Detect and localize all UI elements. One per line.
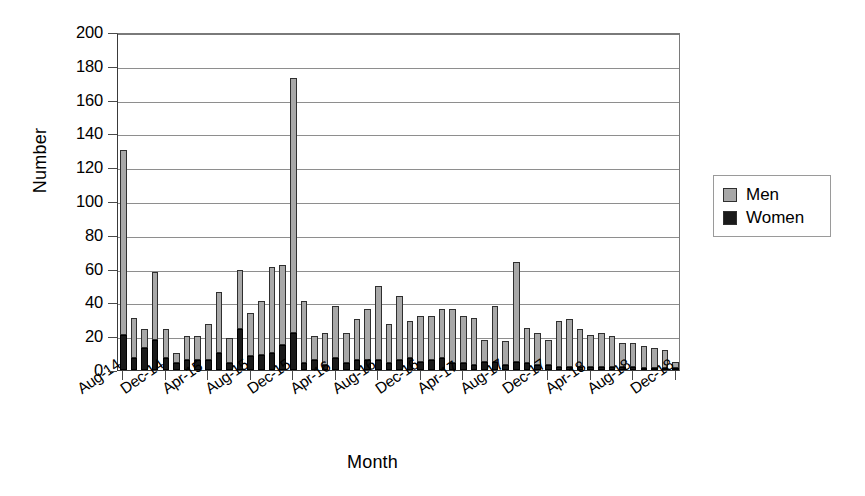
bar-column (258, 32, 265, 370)
bar-segment-men (343, 333, 350, 363)
y-axis-tick-mark (108, 371, 117, 372)
bar-column (152, 32, 159, 370)
bar-column (524, 32, 531, 370)
bar-segment-men (290, 78, 297, 333)
bar-column (534, 32, 541, 370)
bar-column (301, 32, 308, 370)
bar-column (545, 32, 552, 370)
bar-segment-men (428, 316, 435, 360)
bar-column (492, 32, 499, 370)
bar-column (641, 32, 648, 370)
bar-column (672, 32, 679, 370)
bar-segment-men (513, 262, 520, 362)
bar-column (598, 32, 605, 370)
bar-column (354, 32, 361, 370)
y-axis-tick-mark (108, 168, 117, 169)
bar-column (630, 32, 637, 370)
bar-column (471, 32, 478, 370)
bar-column (396, 32, 403, 370)
bar-column (131, 32, 138, 370)
bar-segment-men (471, 318, 478, 365)
y-axis-tick-label: 180 (57, 58, 103, 74)
bar-column (322, 32, 329, 370)
bar-column (662, 32, 669, 370)
bar-segment-men (226, 338, 233, 363)
bar-segment-men (375, 286, 382, 360)
bar-segment-men (502, 341, 509, 365)
bar-column (556, 32, 563, 370)
bar-column (184, 32, 191, 370)
bar-column (279, 32, 286, 370)
y-axis-tick-label: 160 (57, 92, 103, 108)
bar-segment-men (216, 292, 223, 353)
bar-column (194, 32, 201, 370)
bar-column (407, 32, 414, 370)
bar-column (386, 32, 393, 370)
bar-column (460, 32, 467, 370)
bar-column (141, 32, 148, 370)
bar-segment-men (163, 329, 170, 358)
bar-column (216, 32, 223, 370)
bar-column (173, 32, 180, 370)
bar-segment-women (460, 363, 467, 370)
bar-segment-women (290, 333, 297, 370)
bar-segment-men (364, 309, 371, 360)
bar-segment-men (481, 340, 488, 362)
bar-segment-men (152, 272, 159, 340)
bar-segment-men (173, 353, 180, 363)
plot-area (117, 33, 680, 371)
bar-column (311, 32, 318, 370)
y-axis-tick-mark (108, 134, 117, 135)
bar-segment-men (524, 328, 531, 363)
bar-column (577, 32, 584, 370)
bar-column (290, 32, 297, 370)
bar-segment-men (354, 319, 361, 360)
bar-column (163, 32, 170, 370)
bar-column (481, 32, 488, 370)
bar-segment-women (332, 358, 339, 370)
bar-segment-men (258, 301, 265, 355)
y-axis-tick-mark (108, 202, 117, 203)
bar-column (513, 32, 520, 370)
y-axis-tick-label: 140 (57, 125, 103, 141)
bar-column (417, 32, 424, 370)
y-axis-tick-label: 200 (57, 24, 103, 40)
bar-column (120, 32, 127, 370)
bar-column (375, 32, 382, 370)
bar-column (226, 32, 233, 370)
y-axis-tick-mark (108, 236, 117, 237)
bar-segment-women (120, 335, 127, 370)
bar-segment-women (216, 353, 223, 370)
bar-segment-men (587, 335, 594, 367)
y-axis-tick-label: 60 (57, 261, 103, 277)
x-axis-tick-mark (675, 371, 676, 380)
legend-label-men: Men (746, 186, 779, 203)
bar-segment-men (598, 333, 605, 367)
bar-column (651, 32, 658, 370)
bar-segment-men (460, 316, 467, 363)
bar-column (205, 32, 212, 370)
bar-segment-men (131, 318, 138, 359)
legend-item-men: Men (723, 183, 830, 206)
legend-swatch-men (723, 188, 737, 202)
legend-item-women: Women (723, 206, 830, 229)
y-axis-tick-label: 120 (57, 159, 103, 175)
bar-column (566, 32, 573, 370)
bar-segment-men (301, 301, 308, 364)
chart-figure: Number 020406080100120140160180200 Aug-1… (0, 0, 865, 496)
bar-column (449, 32, 456, 370)
bar-segment-women (205, 360, 212, 370)
bar-column (439, 32, 446, 370)
x-axis-title-text: Month (347, 452, 398, 473)
bar-column (269, 32, 276, 370)
legend-label-women: Women (746, 209, 804, 226)
bar-segment-men (141, 329, 148, 348)
bar-segment-men (237, 270, 244, 329)
y-axis-title: Number (30, 81, 51, 241)
bar-series-container (118, 34, 679, 370)
bar-column (619, 32, 626, 370)
bar-segment-men (449, 309, 456, 363)
y-axis-tick-label: 100 (57, 193, 103, 209)
y-axis-tick-mark (108, 101, 117, 102)
y-axis-tick-label: 40 (57, 294, 103, 310)
